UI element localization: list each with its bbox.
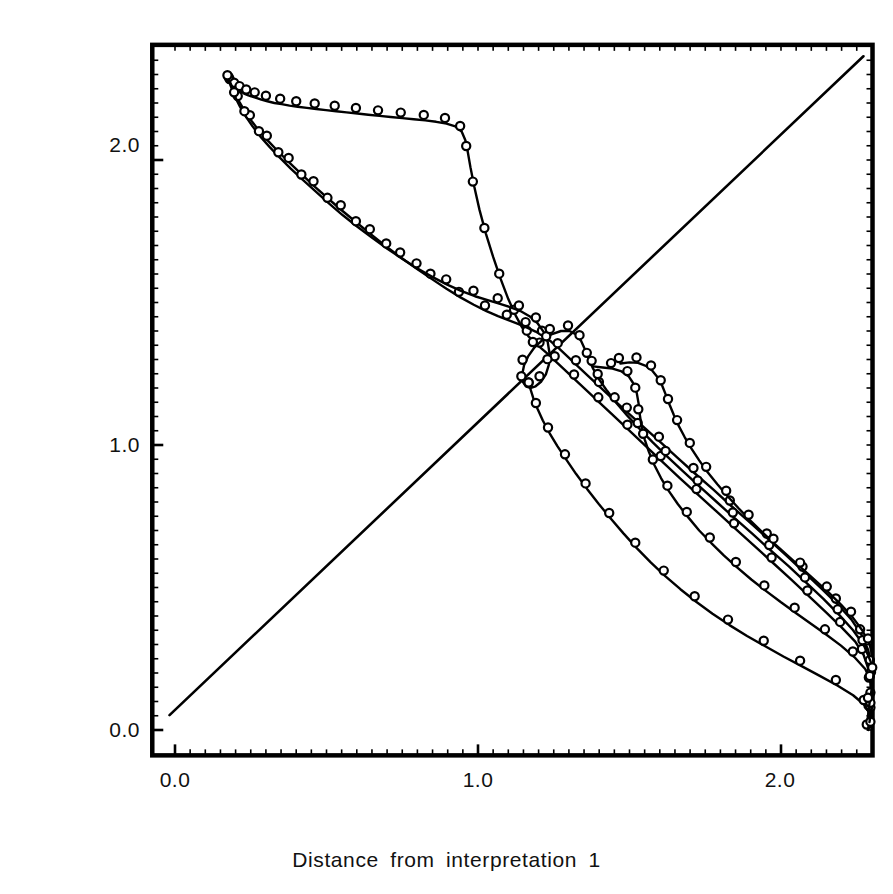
data-point-marker xyxy=(683,508,691,516)
data-point-marker xyxy=(352,104,360,112)
data-point-marker xyxy=(655,433,663,441)
data-point-marker xyxy=(796,559,804,567)
data-point-marker xyxy=(632,353,640,361)
data-point-marker xyxy=(515,301,523,309)
y-tick-label-0: 0.0 xyxy=(70,718,140,742)
data-point-marker xyxy=(518,356,526,364)
data-point-marker xyxy=(503,311,511,319)
figure-panel: 2.0 1.0 0.0 0.0 1.0 2.0 Distance from in… xyxy=(0,0,893,894)
series-line xyxy=(231,84,872,727)
data-point-marker xyxy=(469,177,477,185)
identity-line xyxy=(170,56,864,715)
data-point-marker xyxy=(525,378,533,386)
series-branch-a xyxy=(525,378,875,727)
data-point-marker xyxy=(694,476,702,484)
data-point-marker xyxy=(732,558,740,566)
data-point-marker xyxy=(769,535,777,543)
data-point-marker xyxy=(255,127,263,135)
data-point-marker xyxy=(847,608,855,616)
data-point-marker xyxy=(494,294,502,302)
data-point-marker xyxy=(352,217,360,225)
data-point-marker xyxy=(297,170,305,178)
data-point-marker xyxy=(442,275,450,283)
data-point-marker xyxy=(292,97,300,105)
data-point-marker xyxy=(607,359,615,367)
data-point-marker xyxy=(456,122,464,130)
data-point-marker xyxy=(532,313,540,321)
data-point-marker xyxy=(262,92,270,100)
series-trajectory-lower xyxy=(223,71,875,728)
data-point-marker xyxy=(791,604,799,612)
series-branch-b xyxy=(588,357,875,722)
data-point-marker xyxy=(594,370,602,378)
data-point-marker xyxy=(263,132,271,140)
data-point-marker xyxy=(639,430,647,438)
data-point-marker xyxy=(331,102,339,110)
data-point-marker xyxy=(588,357,596,365)
data-point-marker xyxy=(397,109,405,117)
data-point-marker xyxy=(572,356,580,364)
data-point-marker xyxy=(412,259,420,267)
data-point-marker xyxy=(554,339,562,347)
data-point-marker xyxy=(611,393,619,401)
data-point-marker xyxy=(689,464,697,472)
data-point-marker xyxy=(722,487,730,495)
data-point-marker xyxy=(631,384,639,392)
data-point-marker xyxy=(337,201,345,209)
data-point-marker xyxy=(240,107,248,115)
data-point-marker xyxy=(223,71,231,79)
data-point-marker xyxy=(481,301,489,309)
data-point-marker xyxy=(664,395,672,403)
series-line xyxy=(229,81,873,729)
data-point-marker xyxy=(535,372,543,380)
data-point-marker xyxy=(868,663,876,671)
data-point-marker xyxy=(823,582,831,590)
data-point-marker xyxy=(724,616,732,624)
data-point-marker xyxy=(230,88,238,96)
identity-line xyxy=(170,56,864,715)
data-point-marker xyxy=(849,647,857,655)
data-point-marker xyxy=(691,592,699,600)
data-point-marker xyxy=(561,450,569,458)
data-point-marker xyxy=(480,224,488,232)
data-point-marker xyxy=(575,331,583,339)
data-point-marker xyxy=(615,354,623,362)
data-point-marker xyxy=(663,482,671,490)
data-point-marker xyxy=(285,154,293,162)
data-point-marker xyxy=(760,581,768,589)
data-point-marker xyxy=(495,270,503,278)
data-point-marker xyxy=(660,567,668,575)
data-point-marker xyxy=(543,355,551,363)
data-point-marker xyxy=(702,463,710,471)
data-point-marker xyxy=(517,372,525,380)
data-point-marker xyxy=(864,694,872,702)
data-point-marker xyxy=(242,85,250,93)
data-point-marker xyxy=(251,88,259,96)
data-point-marker xyxy=(583,349,591,357)
data-point-marker xyxy=(532,399,540,407)
data-series-group xyxy=(223,71,876,730)
data-point-marker xyxy=(673,416,681,424)
data-point-marker xyxy=(311,99,319,107)
series-branch-c xyxy=(615,353,877,718)
data-point-marker xyxy=(529,338,537,346)
data-point-marker xyxy=(760,637,768,645)
data-point-marker xyxy=(546,325,554,333)
y-tick-label-1: 1.0 xyxy=(70,433,140,457)
data-point-marker xyxy=(605,509,613,517)
data-point-marker xyxy=(309,177,317,185)
series-trajectory-middle xyxy=(225,73,875,730)
data-point-marker xyxy=(374,106,382,114)
x-tick-label-2: 2.0 xyxy=(745,768,815,792)
data-point-marker xyxy=(796,657,804,665)
x-tick-label-0: 0.0 xyxy=(140,768,210,792)
data-point-marker xyxy=(469,287,477,295)
data-point-marker xyxy=(581,479,589,487)
data-point-marker xyxy=(744,511,752,519)
data-point-marker xyxy=(623,421,631,429)
data-point-marker xyxy=(544,423,552,431)
data-point-marker xyxy=(570,370,578,378)
y-tick-label-2: 2.0 xyxy=(70,133,140,157)
data-point-marker xyxy=(594,393,602,401)
data-point-marker xyxy=(631,539,639,547)
